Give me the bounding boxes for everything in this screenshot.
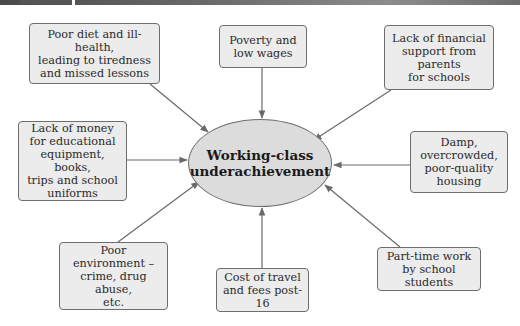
factor-label: Cost of travel and fees post-16 (220, 271, 305, 310)
factor-box-part-time-work: Part-time work by school students (377, 247, 481, 291)
factor-label: Poverty and low wages (229, 34, 297, 60)
arrow-poor-diet (150, 84, 208, 132)
factor-box-poor-environment: Poor environment – crime, drug abuse, et… (59, 242, 168, 310)
central-concept-label: Working-class underachievement (190, 147, 331, 179)
factor-box-housing: Damp, overcrowded, poor-quality housing (410, 131, 508, 193)
factor-label: Poor environment – crime, drug abuse, et… (63, 244, 164, 309)
central-concept-ellipse: Working-class underachievement (188, 119, 332, 207)
factor-label: Lack of money for educational equipment,… (22, 122, 123, 200)
arrow-poor-environment (118, 182, 199, 242)
factor-box-poor-diet: Poor diet and ill-health, leading to tir… (29, 23, 160, 84)
factor-box-cost-of-travel: Cost of travel and fees post-16 (216, 268, 309, 312)
arrow-financial-support (314, 90, 391, 140)
factor-box-lack-of-money: Lack of money for educational equipment,… (18, 121, 127, 201)
factor-box-poverty: Poverty and low wages (219, 25, 307, 68)
arrow-part-time-work (325, 185, 400, 247)
factor-box-financial-support: Lack of financial support from parents f… (384, 25, 494, 90)
factor-label: Damp, overcrowded, poor-quality housing (420, 136, 497, 188)
factor-label: Lack of financial support from parents f… (392, 32, 486, 84)
factor-label: Part-time work by school students (381, 250, 477, 289)
factor-label: Poor diet and ill-health, leading to tir… (33, 28, 156, 80)
